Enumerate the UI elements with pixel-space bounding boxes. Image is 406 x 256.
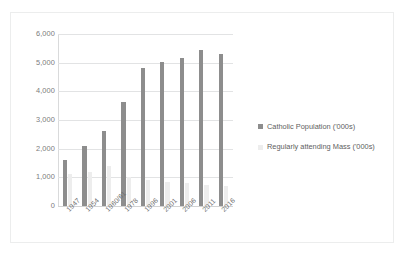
legend-label: Catholic Population ('000s) [267,123,355,130]
bar-catholic-population [160,62,164,206]
legend-label: Regularly attending Mass ('000s) [267,143,375,150]
bar-group [58,34,77,206]
y-tick-label: 5,000 [11,59,55,66]
x-axis-labels: 194719541960/61197819962001200620112016 [58,208,233,248]
y-tick-label: 0 [11,202,55,209]
bar-group [155,34,174,206]
plot-area [58,34,233,206]
bar-group [77,34,96,206]
chart-legend: Catholic Population ('000s)Regularly att… [258,123,406,164]
bar-catholic-population [102,131,106,206]
y-tick-label: 4,000 [11,88,55,95]
y-tick-label: 2,000 [11,145,55,152]
y-tick-label: 3,000 [11,116,55,123]
y-tick-label: 1,000 [11,174,55,181]
y-tick-label: 6,000 [11,30,55,37]
bar-group [136,34,155,206]
bar-group [97,34,116,206]
bar-catholic-population [199,50,203,206]
bar-catholic-population [141,68,145,206]
legend-item[interactable]: Catholic Population ('000s) [258,123,406,130]
legend-item[interactable]: Regularly attending Mass ('000s) [258,143,406,150]
bar-group [194,34,213,206]
bar-group [116,34,135,206]
bar-catholic-population [180,58,184,206]
y-axis-labels: 01,0002,0003,0004,0005,0006,000 [11,34,55,206]
chart-container: 01,0002,0003,0004,0005,0006,000 19471954… [10,12,394,243]
bar-catholic-population [82,146,86,206]
bar-group [175,34,194,206]
legend-swatch-icon [258,145,263,150]
legend-swatch-icon [258,124,263,129]
bar-group [214,34,233,206]
bar-catholic-population [219,54,223,206]
bar-catholic-population [63,160,67,206]
